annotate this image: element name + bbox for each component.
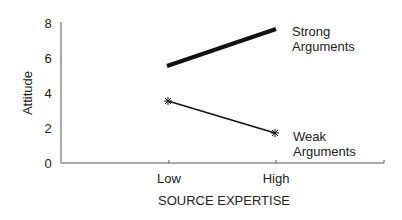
y-tick-0: 0	[44, 156, 51, 171]
y-tick-6: 6	[44, 51, 51, 66]
series-weak-line	[168, 101, 275, 133]
x-axis-title: SOURCE EXPERTISE	[158, 193, 290, 208]
asterisk-marker-icon	[271, 129, 279, 137]
legend-strong-line2: Arguments	[292, 39, 355, 54]
y-tick-2: 2	[44, 121, 51, 136]
y-tick-8: 8	[44, 16, 51, 31]
legend-weak-line1: Weak	[293, 129, 326, 144]
chart: 8 6 4 2 0 Attitude Low High SOURCE EXPER…	[0, 0, 402, 220]
y-axis-title: Attitude	[20, 71, 35, 115]
x-tick-label-high: High	[263, 171, 290, 186]
legend-weak-line2: Arguments	[293, 144, 356, 159]
y-tick-4: 4	[44, 86, 51, 101]
x-tick-label-low: Low	[157, 171, 181, 186]
legend-strong-line1: Strong	[292, 24, 330, 39]
asterisk-marker-icon	[164, 97, 172, 105]
series-strong-line	[167, 29, 276, 66]
